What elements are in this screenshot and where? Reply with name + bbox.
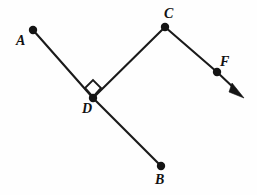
segment-d-b bbox=[93, 98, 161, 166]
segment-d-c bbox=[93, 27, 165, 98]
segment-c-f bbox=[165, 27, 217, 72]
geometry-diagram: A B C D F bbox=[0, 0, 257, 195]
arrowhead-icon bbox=[229, 83, 244, 98]
point-label-d: D bbox=[82, 102, 92, 116]
vertex-dot-b bbox=[157, 162, 165, 170]
geometry-canvas bbox=[0, 0, 257, 195]
point-label-b: B bbox=[155, 173, 164, 187]
point-label-a: A bbox=[16, 34, 25, 48]
vertex-dot-c bbox=[161, 23, 169, 31]
vertex-dot-f bbox=[213, 68, 221, 76]
point-label-c: C bbox=[164, 7, 173, 21]
point-label-f: F bbox=[220, 55, 229, 69]
vertex-dot-a bbox=[29, 26, 37, 34]
